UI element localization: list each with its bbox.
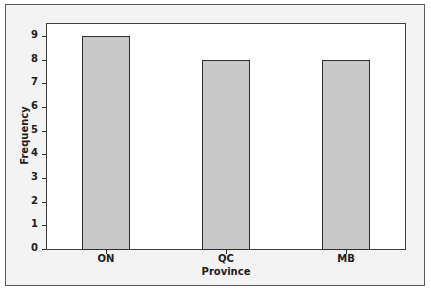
bar-mb <box>322 60 370 250</box>
y-tick <box>42 36 46 37</box>
y-tick <box>42 178 46 179</box>
bar-qc <box>202 60 250 250</box>
x-tick-label: QC <box>206 253 246 264</box>
bar-on <box>82 36 130 250</box>
y-tick-label: 0 <box>24 242 38 253</box>
y-tick-label: 9 <box>24 29 38 40</box>
y-tick <box>42 83 46 84</box>
y-tick <box>42 131 46 132</box>
x-tick-label: ON <box>86 253 126 264</box>
y-axis-title: Frequency <box>19 96 30 176</box>
y-tick <box>42 249 46 250</box>
y-tick-label: 7 <box>24 76 38 87</box>
y-tick <box>42 225 46 226</box>
y-tick <box>42 202 46 203</box>
y-tick <box>42 107 46 108</box>
x-axis-title: Province <box>186 266 266 277</box>
y-tick-label: 2 <box>24 195 38 206</box>
y-tick-label: 8 <box>24 53 38 64</box>
y-tick <box>42 60 46 61</box>
x-tick-label: MB <box>326 253 366 264</box>
y-tick <box>42 154 46 155</box>
y-tick-label: 1 <box>24 218 38 229</box>
